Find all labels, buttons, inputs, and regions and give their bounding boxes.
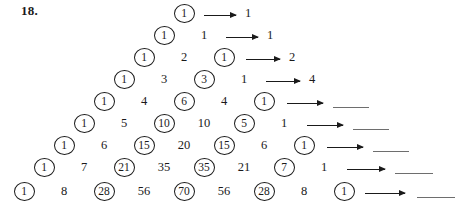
entry-text: 8	[61, 180, 67, 202]
entry-text: 1	[281, 112, 287, 134]
arrow-head	[379, 166, 386, 172]
answer-value: 1	[267, 24, 273, 46]
arrow-head	[274, 56, 281, 62]
circled-entry: 1	[52, 134, 76, 156]
arrow-head	[252, 34, 259, 40]
arrow-head	[399, 190, 406, 196]
entry-text: 1	[201, 24, 207, 46]
circle-outline: 1	[214, 48, 235, 67]
plain-entry: 4	[212, 90, 236, 112]
arrow-head	[357, 144, 364, 150]
right-arrow-icon	[204, 12, 236, 20]
entry-text: 6	[101, 134, 107, 156]
circled-entry: 15	[132, 134, 156, 156]
circle-outline: 35	[194, 158, 215, 177]
entry-text: 2	[181, 46, 187, 68]
triangle-row: 172135352171	[0, 156, 461, 178]
arrow-head	[337, 122, 344, 128]
circle-outline: 1	[294, 136, 315, 155]
circled-entry: 1	[152, 24, 176, 46]
right-arrow-icon	[226, 34, 258, 42]
answer-value: 4	[309, 68, 315, 90]
plain-entry: 7	[72, 156, 96, 178]
plain-entry: 2	[172, 46, 196, 68]
triangle-row: 14641	[0, 90, 461, 112]
entry-text: 21	[238, 156, 251, 178]
circled-entry: 7	[272, 156, 296, 178]
answer-blank[interactable]	[417, 197, 455, 198]
circle-outline: 28	[254, 182, 275, 201]
circled-entry: 1	[12, 180, 36, 202]
circled-entry: 1	[32, 156, 56, 178]
plain-entry: 1	[192, 24, 216, 46]
circled-entry: 1	[172, 2, 196, 24]
arrow-head	[294, 78, 301, 84]
circled-entry: 1	[132, 46, 156, 68]
circled-entry: 21	[112, 156, 136, 178]
arrow-head	[317, 100, 324, 106]
plain-entry: 56	[132, 180, 156, 202]
circled-entry: 1	[92, 90, 116, 112]
entry-text: 35	[158, 156, 171, 178]
triangle-row: 13314	[0, 68, 461, 90]
entry-text: 56	[218, 180, 231, 202]
circled-entry: 1	[72, 112, 96, 134]
plain-entry: 8	[292, 180, 316, 202]
circle-outline: 1	[254, 92, 275, 111]
circled-entry: 1	[112, 68, 136, 90]
answer-value: 2	[289, 46, 295, 68]
circle-outline: 1	[334, 182, 355, 201]
answer-value: 1	[245, 2, 251, 24]
right-arrow-icon	[246, 56, 280, 64]
right-arrow-icon	[365, 190, 405, 198]
plain-entry: 1	[272, 112, 296, 134]
entry-text: 4	[141, 90, 147, 112]
triangle-row: 18285670562881	[0, 180, 461, 202]
answer-blank[interactable]	[395, 173, 433, 174]
circled-entry: 1	[332, 180, 356, 202]
circle-outline: 28	[94, 182, 115, 201]
circle-outline: 1	[34, 158, 55, 177]
plain-entry: 4	[132, 90, 156, 112]
circle-outline: 1	[54, 136, 75, 155]
entry-text: 6	[261, 134, 267, 156]
entry-text: 1	[321, 156, 327, 178]
circle-outline: 10	[154, 114, 175, 133]
right-arrow-icon	[266, 78, 300, 86]
plain-entry: 8	[52, 180, 76, 202]
plain-entry: 21	[232, 156, 256, 178]
circled-entry: 28	[92, 180, 116, 202]
circled-entry: 70	[172, 180, 196, 202]
circle-outline: 1	[14, 182, 35, 201]
entry-text: 4	[221, 90, 227, 112]
plain-entry: 1	[232, 68, 256, 90]
circle-outline: 6	[174, 92, 195, 111]
entry-text: 20	[178, 134, 191, 156]
circled-entry: 10	[152, 112, 176, 134]
plain-entry: 35	[152, 156, 176, 178]
plain-entry: 6	[252, 134, 276, 156]
plain-entry: 20	[172, 134, 196, 156]
circled-entry: 1	[212, 46, 236, 68]
entry-text: 5	[121, 112, 127, 134]
right-arrow-icon	[347, 166, 385, 174]
circle-outline: 1	[94, 92, 115, 111]
arrow-head	[230, 12, 237, 18]
entry-text: 56	[138, 180, 151, 202]
answer-blank[interactable]	[353, 129, 389, 130]
circle-outline: 15	[134, 136, 155, 155]
plain-entry: 3	[152, 68, 176, 90]
plain-entry: 6	[92, 134, 116, 156]
entry-text: 10	[198, 112, 211, 134]
triangle-row: 1212	[0, 46, 461, 68]
circle-outline: 1	[154, 26, 175, 45]
circled-entry: 28	[252, 180, 276, 202]
circle-outline: 70	[174, 182, 195, 201]
answer-blank[interactable]	[373, 151, 409, 152]
circled-entry: 5	[232, 112, 256, 134]
circled-entry: 6	[172, 90, 196, 112]
answer-blank[interactable]	[333, 107, 369, 108]
circle-outline: 3	[194, 70, 215, 89]
right-arrow-icon	[307, 122, 343, 130]
circled-entry: 15	[212, 134, 236, 156]
